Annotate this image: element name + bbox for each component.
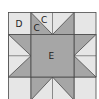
label-point-outer-c: C	[41, 15, 47, 25]
star-point-right	[74, 35, 96, 78]
quilt-block-diagram: D C C E	[0, 0, 99, 99]
label-corner-d: D	[16, 19, 23, 29]
corner-square-bottom-left	[9, 77, 32, 99]
label-point-inner-c: C	[34, 23, 40, 33]
star-point-bottom	[31, 77, 74, 99]
star-point-left	[9, 35, 32, 78]
label-center-e: E	[49, 51, 55, 61]
corner-square-top-right	[74, 13, 96, 35]
corner-square-bottom-right	[74, 77, 96, 99]
